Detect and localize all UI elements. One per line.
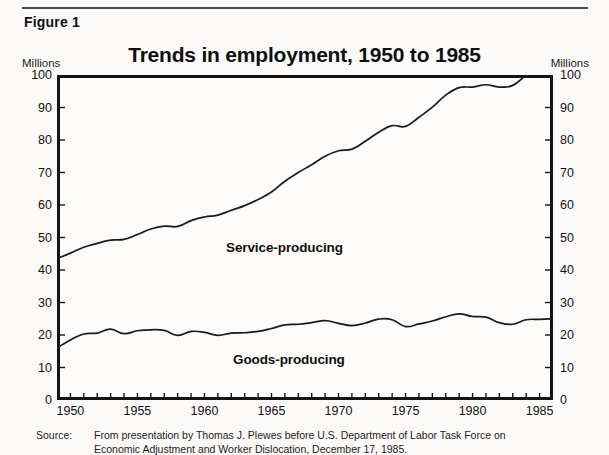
source-note: Source: From presentation by Thomas J. P…: [36, 428, 576, 455]
y-tick-label-left-0: 0: [45, 394, 52, 407]
top-divider-rule: [22, 7, 588, 9]
y-tick-label-left-60: 60: [38, 199, 52, 212]
y-tick-label-left-100: 100: [31, 69, 52, 82]
y-tick-label-left-70: 70: [38, 167, 52, 180]
y-tick-label-right-10: 10: [560, 362, 574, 375]
x-tick-label-1975: 1975: [392, 404, 420, 418]
y-tick-label-left-90: 90: [38, 102, 52, 115]
y-tick-label-left-30: 30: [38, 297, 52, 310]
source-body: From presentation by Thomas J. Plewes be…: [94, 428, 576, 455]
y-tick-label-left-50: 50: [38, 232, 52, 245]
y-tick-label-right-50: 50: [560, 232, 574, 245]
x-tick-label-1965: 1965: [258, 404, 286, 418]
y-tick-label-right-60: 60: [560, 199, 574, 212]
chart-title: Trends in employment, 1950 to 1985: [0, 43, 609, 67]
figure-label: Figure 1: [24, 14, 80, 30]
y-tick-label-right-70: 70: [560, 167, 574, 180]
y-tick-label-left-40: 40: [38, 264, 52, 277]
y-axis-labels-right: 0102030405060708090100: [560, 75, 594, 400]
series-label-goods: Goods-producing: [233, 352, 345, 367]
y-tick-label-left-20: 20: [38, 329, 52, 342]
y-tick-label-left-10: 10: [38, 362, 52, 375]
source-key: Source:: [36, 428, 72, 442]
y-tick-label-right-30: 30: [560, 297, 574, 310]
y-tick-label-right-20: 20: [560, 329, 574, 342]
source-line-1: From presentation by Thomas J. Plewes be…: [94, 428, 576, 442]
series-line-service-producing: [57, 75, 553, 259]
x-axis-labels: 19501955196019651970197519801985: [57, 404, 553, 424]
x-tick-label-1980: 1980: [459, 404, 487, 418]
y-tick-label-left-80: 80: [38, 134, 52, 147]
y-axis-labels-left: 0102030405060708090100: [22, 75, 52, 400]
y-tick-label-right-0: 0: [560, 394, 567, 407]
x-tick-label-1985: 1985: [526, 404, 554, 418]
y-tick-label-right-80: 80: [560, 134, 574, 147]
plot-area: Service-producing Goods-producing: [57, 75, 553, 400]
x-tick-label-1970: 1970: [325, 404, 353, 418]
x-tick-label-1955: 1955: [124, 404, 152, 418]
source-line-2: Economic Adjustment and Worker Dislocati…: [94, 442, 576, 455]
x-tick-label-1960: 1960: [191, 404, 219, 418]
x-tick-label-1950: 1950: [56, 404, 84, 418]
y-tick-label-right-40: 40: [560, 264, 574, 277]
series-label-service: Service-producing: [226, 240, 343, 255]
y-tick-label-right-100: 100: [560, 69, 581, 82]
figure-page: Figure 1 Trends in employment, 1950 to 1…: [0, 0, 609, 455]
y-tick-label-right-90: 90: [560, 102, 574, 115]
series-line-goods-producing: [57, 314, 553, 348]
